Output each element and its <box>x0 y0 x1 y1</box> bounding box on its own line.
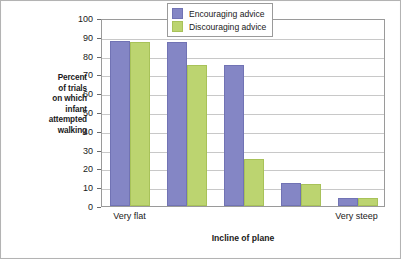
plot-area <box>101 19 385 207</box>
x-axis-tick-label: Very flat <box>113 211 146 221</box>
bar-encouraging <box>281 183 301 206</box>
bar-discouraging <box>130 42 150 206</box>
y-axis-tick-label: 40 <box>71 127 93 137</box>
y-axis-tick-label: 60 <box>71 89 93 99</box>
y-axis-tick-label: 100 <box>71 14 93 24</box>
y-axis-tick-mark <box>97 169 101 170</box>
y-axis-tick-mark <box>97 19 101 20</box>
bar-discouraging <box>301 184 321 206</box>
bar-encouraging <box>167 42 187 206</box>
y-axis-tick-mark <box>97 151 101 152</box>
legend-item-label: Encouraging advice <box>189 9 265 19</box>
legend-item-label: Discouraging advice <box>189 22 266 32</box>
y-axis-tick-label: 30 <box>71 146 93 156</box>
bar-series-container <box>102 20 384 206</box>
y-axis-tick-mark <box>97 188 101 189</box>
y-axis-tick-mark <box>97 113 101 114</box>
y-axis-tick-label: 20 <box>71 164 93 174</box>
y-axis-tick-mark <box>97 94 101 95</box>
legend-swatch-icon <box>172 21 183 32</box>
y-axis-tick-mark <box>97 207 101 208</box>
y-axis-tick-mark <box>97 75 101 76</box>
bar-discouraging <box>187 65 207 206</box>
y-axis-tick-label: 10 <box>71 183 93 193</box>
bar-encouraging <box>110 41 130 206</box>
y-axis-tick-labels: 0102030405060708090100 <box>71 19 97 207</box>
y-axis-tick-label: 70 <box>71 70 93 80</box>
x-axis-tick-label: Very steep <box>335 211 378 221</box>
y-axis-tick-label: 0 <box>71 202 93 212</box>
y-axis-tick-label: 50 <box>71 108 93 118</box>
legend-swatch-icon <box>172 8 183 19</box>
legend-item-discouraging-advice: Discouraging advice <box>172 20 266 33</box>
x-axis-title: Incline of plane <box>101 233 385 243</box>
y-axis-tick-mark <box>97 132 101 133</box>
legend-item-encouraging-advice: Encouraging advice <box>172 7 266 20</box>
bar-discouraging <box>244 159 264 206</box>
bar-encouraging <box>224 65 244 206</box>
y-axis-tick-label: 80 <box>71 52 93 62</box>
chart-figure: Percent of trials on which infant attemp… <box>0 0 401 259</box>
y-axis-tick-label: 90 <box>71 33 93 43</box>
y-axis-tick-mark <box>97 57 101 58</box>
y-axis-tick-mark <box>97 38 101 39</box>
bar-discouraging <box>358 198 378 206</box>
chart-legend: Encouraging advice Discouraging advice <box>167 3 273 37</box>
bar-encouraging <box>338 198 358 206</box>
